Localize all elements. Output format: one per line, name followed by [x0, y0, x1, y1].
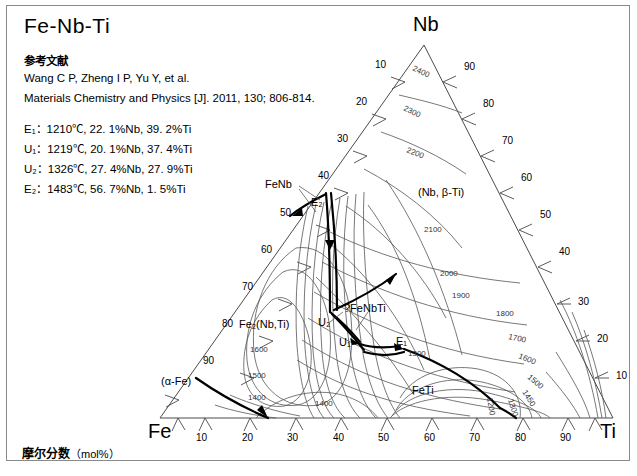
bottom-tick-10: 10: [196, 432, 207, 443]
bottom-tick-80: 80: [515, 432, 526, 443]
left-tick-20: 20: [356, 96, 367, 107]
right-tick-60: 60: [521, 172, 532, 183]
point-label-e2: E₂: [311, 196, 323, 208]
left-tick-70: 70: [242, 281, 253, 292]
right-tick-20: 20: [597, 333, 608, 344]
phase-label-feti: FeTi: [412, 384, 434, 396]
right-tick-50: 50: [540, 209, 551, 220]
corner-label-fe: Fe: [148, 420, 171, 443]
left-tick-80: 80: [222, 318, 233, 329]
left-tick-60: 60: [261, 244, 272, 255]
phase-diagram-page: Fe-Nb-Ti 参考文献 Wang C P, Zheng I P, Yu Y,…: [0, 0, 637, 476]
bottom-axis-ticks: [172, 418, 602, 431]
bottom-tick-30: 30: [287, 432, 298, 443]
right-tick-80: 80: [483, 98, 494, 109]
left-tick-10: 10: [375, 59, 386, 70]
phase-label-alpha-fe: (α-Fe): [161, 375, 191, 387]
phase-label-fenbti: ?FeNbTi: [344, 302, 386, 314]
left-tick-30: 30: [337, 133, 348, 144]
corner-label-nb: Nb: [413, 13, 439, 36]
phase-label-fenb: FeNb: [265, 178, 292, 190]
point-label-e1: E₁: [396, 335, 407, 347]
left-tick-40: 40: [318, 170, 329, 181]
corner-label-ti: Ti: [600, 420, 616, 443]
phase-label-nb-beta-ti: (Nb, β-Ti): [418, 186, 464, 198]
ternary-diagram: [0, 0, 637, 476]
right-tick-70: 70: [502, 135, 513, 146]
isotherms: [215, 95, 606, 418]
bottom-tick-60: 60: [424, 432, 435, 443]
bottom-tick-50: 50: [378, 432, 389, 443]
triangle-outline: [160, 45, 613, 418]
right-tick-90: 90: [464, 61, 475, 72]
right-axis-ticks: [443, 76, 609, 378]
bottom-tick-70: 70: [469, 432, 480, 443]
left-tick-90: 90: [203, 355, 214, 366]
point-label-u2: U₂: [318, 316, 330, 328]
bottom-tick-20: 20: [242, 432, 253, 443]
right-tick-40: 40: [559, 246, 570, 257]
right-tick-30: 30: [578, 296, 589, 307]
bottom-tick-40: 40: [333, 432, 344, 443]
left-tick-50: 50: [280, 207, 291, 218]
phase-label-fe2nbti: Fe₂(Nb,Ti): [239, 318, 289, 330]
bottom-tick-90: 90: [560, 432, 571, 443]
right-tick-10: 10: [616, 370, 627, 381]
point-label-u1: U₁: [339, 336, 351, 348]
